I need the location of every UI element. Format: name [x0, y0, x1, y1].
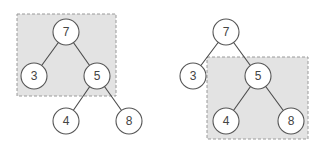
tree-node-5: 5 [245, 63, 271, 89]
left-tree: 7 3 5 4 8 [17, 14, 142, 134]
node-label: 5 [94, 69, 101, 83]
node-label: 4 [223, 114, 230, 128]
tree-node-8: 8 [116, 108, 142, 134]
binary-tree-diagram: 7 3 5 4 8 7 3 [0, 0, 324, 149]
node-label: 8 [126, 114, 133, 128]
node-label: 3 [31, 69, 38, 83]
tree-node-3: 3 [21, 63, 47, 89]
node-label: 7 [63, 25, 70, 39]
right-tree: 7 3 5 4 8 [180, 19, 308, 139]
tree-node-7: 7 [53, 19, 79, 45]
tree-node-3: 3 [180, 63, 206, 89]
tree-node-4: 4 [213, 108, 239, 134]
node-label: 5 [255, 69, 262, 83]
node-label: 7 [223, 25, 230, 39]
node-label: 4 [63, 114, 70, 128]
tree-node-8: 8 [278, 108, 304, 134]
node-label: 3 [190, 69, 197, 83]
tree-node-7: 7 [213, 19, 239, 45]
tree-node-5: 5 [84, 63, 110, 89]
tree-node-4: 4 [53, 108, 79, 134]
node-label: 8 [288, 114, 295, 128]
